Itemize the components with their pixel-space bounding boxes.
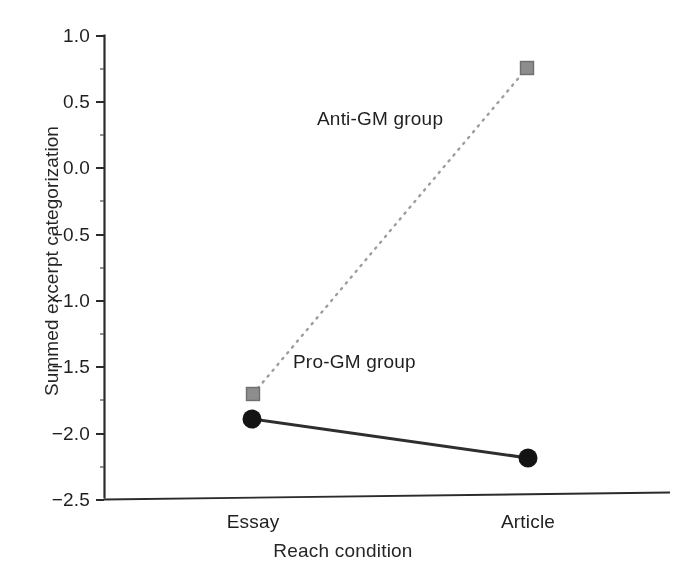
x-axis-spine — [104, 493, 670, 500]
data-point-pro-gm-article — [519, 449, 538, 468]
chart-figure: Summed excerpt categorization 1.0 0.5 0.… — [0, 0, 686, 573]
series-line-anti-gm — [253, 68, 527, 394]
data-point-pro-gm-essay — [243, 410, 262, 429]
data-point-anti-gm-essay — [247, 388, 260, 401]
plot-area — [0, 0, 686, 573]
data-point-anti-gm-article — [521, 62, 534, 75]
series-line-pro-gm — [252, 419, 528, 458]
